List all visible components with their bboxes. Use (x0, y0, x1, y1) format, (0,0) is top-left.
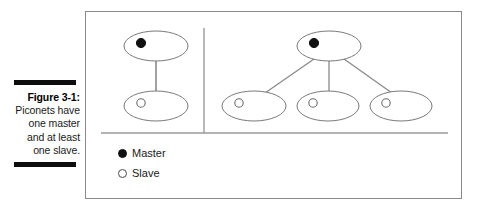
legend-label-master: Master (132, 147, 166, 159)
link-master-slave-right (344, 59, 392, 93)
hollow-circle-icon (118, 169, 127, 178)
filled-circle-icon (309, 38, 318, 47)
caption-rule-top (14, 80, 76, 85)
diagram-legend: Master Slave (118, 143, 268, 183)
slave-ellipse (370, 91, 432, 121)
figure-caption-block: Figure 3-1: Piconets have one master and… (14, 80, 80, 167)
filled-circle-icon (118, 149, 127, 158)
master-ellipse (297, 31, 361, 61)
hollow-circle-icon (235, 99, 243, 107)
figure-caption: Figure 3-1: Piconets have one master and… (14, 91, 80, 157)
figure-page: Figure 3-1: Piconets have one master and… (0, 0, 487, 215)
node-slave (124, 91, 188, 121)
figure-caption-label: Figure 3-1: (14, 91, 80, 104)
slave-ellipse (297, 91, 359, 121)
link-master-slave-left (265, 59, 314, 93)
caption-rule-bottom (14, 162, 76, 167)
hollow-circle-icon (382, 99, 390, 107)
node-slave (222, 91, 286, 121)
legend-label-slave: Slave (132, 167, 160, 179)
node-master (124, 31, 188, 61)
hollow-circle-icon (137, 99, 145, 107)
master-ellipse (124, 31, 188, 61)
figure-caption-body: Piconets have one master and at least on… (14, 104, 80, 157)
slave-ellipse (222, 91, 286, 121)
piconet-one-slave (124, 31, 188, 121)
figure-frame: Master Slave (85, 11, 462, 199)
legend-item-slave: Slave (118, 163, 268, 183)
slave-ellipse (124, 91, 188, 121)
node-slave (370, 91, 432, 121)
hollow-circle-icon (309, 99, 317, 107)
legend-item-master: Master (118, 143, 268, 163)
node-master (297, 31, 361, 61)
filled-circle-icon (136, 38, 145, 47)
node-slave (297, 91, 359, 121)
piconet-three-slaves (222, 31, 432, 121)
